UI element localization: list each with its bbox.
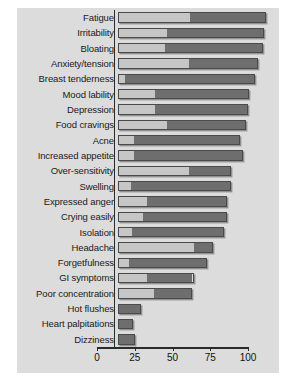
bar-row: Heart palpitations xyxy=(17,317,279,332)
bar-row: Breast tenderness xyxy=(17,71,279,86)
bar-segment-light xyxy=(119,167,189,175)
bar-segment-dark xyxy=(119,320,132,328)
bar-segment-light xyxy=(119,228,132,236)
bar-category-label: Isolation xyxy=(17,228,118,238)
stacked-bar xyxy=(118,181,231,191)
bar-track xyxy=(118,133,279,148)
bar-track xyxy=(118,194,279,209)
bar-rows-area: FatigueIrritabilityBloatingAnxiety/tensi… xyxy=(17,10,279,340)
bar-category-label: Poor concentration xyxy=(17,289,118,299)
bar-segment-dark xyxy=(119,335,134,343)
bar-segment-light xyxy=(119,197,147,205)
x-axis-tick-label: 100 xyxy=(240,352,257,363)
bar-row: Fatigue xyxy=(17,10,279,25)
stacked-bar xyxy=(118,43,263,53)
x-axis-tick-label: 25 xyxy=(129,352,140,363)
bar-track xyxy=(118,163,279,178)
bar-row: Depression xyxy=(17,102,279,117)
bar-category-label: Dizziness xyxy=(17,335,118,345)
bar-category-label: GI symptoms xyxy=(17,273,118,283)
bar-segment-dark xyxy=(167,29,264,37)
bar-category-label: Fatigue xyxy=(17,13,118,23)
bar-segment-light xyxy=(119,136,134,144)
bar-segment-light xyxy=(119,44,165,52)
bar-row: Anxiety/tension xyxy=(17,56,279,71)
stacked-bar xyxy=(118,258,207,268)
bar-segment-dark xyxy=(147,197,226,205)
bar-track xyxy=(118,41,279,56)
stacked-bar xyxy=(118,120,246,130)
stacked-bar xyxy=(118,288,192,298)
bar-row: Mood lability xyxy=(17,87,279,102)
bar-track xyxy=(118,209,279,224)
x-axis-tick xyxy=(173,347,174,351)
x-axis-tick xyxy=(210,347,211,351)
bar-segment-dark xyxy=(119,305,140,313)
x-axis-tick-label: 0 xyxy=(94,352,100,363)
bar-category-label: Headache xyxy=(17,243,118,253)
bar-segment-dark xyxy=(147,274,193,282)
bar-category-label: Crying easily xyxy=(17,212,118,222)
bar-row: Over-sensitivity xyxy=(17,163,279,178)
bar-track xyxy=(118,179,279,194)
bar-track xyxy=(118,240,279,255)
stacked-bar xyxy=(118,334,135,344)
bar-segment-light xyxy=(119,151,134,159)
bar-track xyxy=(118,71,279,86)
bar-segment-light xyxy=(119,182,131,190)
bar-track xyxy=(118,148,279,163)
bar-track xyxy=(118,286,279,301)
bar-category-label: Hot flushes xyxy=(17,304,118,314)
bar-category-label: Acne xyxy=(17,136,118,146)
bar-row: Hot flushes xyxy=(17,301,279,316)
stacked-bar xyxy=(118,196,227,206)
bar-segment-light xyxy=(119,243,194,251)
bar-row: Irritability xyxy=(17,25,279,40)
bar-segment-dark xyxy=(131,182,230,190)
stacked-bar xyxy=(118,12,266,22)
bar-row: Crying easily xyxy=(17,209,279,224)
bar-category-label: Swelling xyxy=(17,182,118,192)
bar-segment-light xyxy=(119,13,190,21)
bar-track xyxy=(118,332,279,347)
stacked-bar xyxy=(118,319,133,329)
bar-row: Bloating xyxy=(17,41,279,56)
bar-segment-dark xyxy=(155,90,249,98)
bar-segment-dark xyxy=(125,75,254,83)
bar-row: Acne xyxy=(17,133,279,148)
stacked-bar xyxy=(118,104,248,114)
bar-track xyxy=(118,271,279,286)
stacked-bar xyxy=(118,212,227,222)
bar-track xyxy=(118,225,279,240)
bar-row: Poor concentration xyxy=(17,286,279,301)
bar-segment-dark xyxy=(190,13,264,21)
bar-row: Increased appetite xyxy=(17,148,279,163)
x-axis-tick xyxy=(135,347,136,351)
bar-row: GI symptoms xyxy=(17,271,279,286)
x-axis: 0255075100 xyxy=(0,347,262,373)
bar-category-label: Food cravings xyxy=(17,120,118,130)
bar-segment-dark xyxy=(134,151,242,159)
bar-track xyxy=(118,102,279,117)
bar-track xyxy=(118,255,279,270)
bar-segment-dark xyxy=(165,44,262,52)
stacked-bar xyxy=(118,166,231,176)
bar-track xyxy=(118,25,279,40)
stacked-bar xyxy=(118,135,240,145)
bar-category-label: Depression xyxy=(17,105,118,115)
bar-row: Forgetfulness xyxy=(17,255,279,270)
bar-category-label: Breast tenderness xyxy=(17,74,118,84)
bar-row: Headache xyxy=(17,240,279,255)
bar-segment-dark xyxy=(167,121,246,129)
bar-segment-dark xyxy=(134,136,239,144)
bar-category-label: Expressed anger xyxy=(17,197,118,207)
stacked-bar xyxy=(118,58,258,68)
bar-category-label: Bloating xyxy=(17,44,118,54)
bar-segment-dark xyxy=(154,289,191,297)
stacked-bar xyxy=(118,304,141,314)
bar-segment-light xyxy=(119,213,143,221)
bar-track xyxy=(118,117,279,132)
bar-track xyxy=(118,56,279,71)
x-axis-tick-label: 50 xyxy=(167,352,178,363)
stacked-bar xyxy=(118,28,264,38)
